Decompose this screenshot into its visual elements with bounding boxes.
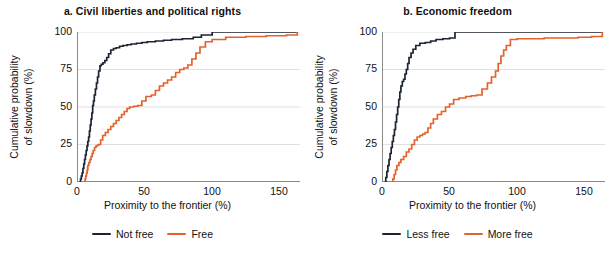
legend-label-more-free: More free [488, 228, 533, 240]
panel-b-plot-svg [382, 32, 605, 182]
panel-b-plot-area [382, 32, 605, 182]
panel-b-ytick-75: 75 [349, 62, 377, 74]
panel-b-ytick-50: 50 [349, 100, 377, 112]
panel-b-ytick-0: 0 [349, 175, 377, 187]
legend-swatch-less-free [382, 233, 401, 235]
legend-label-not-free: Not free [116, 228, 153, 240]
panel-a-ylabel: Cumulative probability of slowdown (%) [8, 32, 35, 182]
panel-b: b. Economic freedom Cumulative probabili… [305, 0, 610, 258]
panel-a-plot-svg [77, 32, 300, 182]
panel-b-xtick-100: 100 [508, 185, 526, 197]
panel-a-ytick-25: 25 [44, 137, 72, 149]
panel-b-xlabel: Proximity to the frontier (%) [335, 199, 610, 211]
panel-b-xtick-50: 50 [443, 185, 455, 197]
panel-a-ytick-100: 100 [44, 25, 72, 37]
panel-a-ytick-labels: 100 75 50 25 0 [42, 0, 72, 258]
panel-a-legend: Not free Free [0, 228, 305, 240]
panel-b-ylabel-line2: of slowdown (%) [327, 32, 341, 182]
panel-a: a. Civil liberties and political rights … [0, 0, 305, 258]
panel-a-xtick-0: 0 [74, 185, 80, 197]
legend-item-not-free: Not free [92, 228, 153, 240]
panel-a-xtick-150: 150 [270, 185, 288, 197]
panel-a-xtick-100: 100 [203, 185, 221, 197]
legend-swatch-not-free [92, 233, 111, 235]
panel-a-xlabel: Proximity to the frontier (%) [30, 199, 305, 211]
legend-swatch-free [167, 233, 186, 235]
panel-a-ylabel-line2: of slowdown (%) [22, 32, 36, 182]
panel-a-ytick-0: 0 [44, 175, 72, 187]
legend-item-free: Free [167, 228, 213, 240]
panel-b-legend: Less free More free [305, 228, 610, 240]
panel-a-plot-area [77, 32, 300, 182]
panel-b-xtick-0: 0 [379, 185, 385, 197]
legend-label-less-free: Less free [406, 228, 449, 240]
panel-b-ylabel-line1: Cumulative probability [313, 32, 327, 182]
panel-a-xtick-50: 50 [138, 185, 150, 197]
legend-label-free: Free [191, 228, 213, 240]
panel-a-ylabel-line1: Cumulative probability [8, 32, 22, 182]
panel-b-ylabel: Cumulative probability of slowdown (%) [313, 32, 340, 182]
panel-a-ytick-75: 75 [44, 62, 72, 74]
legend-swatch-more-free [464, 233, 483, 235]
panel-b-xtick-150: 150 [575, 185, 593, 197]
panel-a-ytick-50: 50 [44, 100, 72, 112]
legend-item-less-free: Less free [382, 228, 449, 240]
panel-b-ytick-100: 100 [349, 25, 377, 37]
panel-b-ytick-labels: 100 75 50 25 0 [347, 0, 377, 258]
legend-item-more-free: More free [464, 228, 533, 240]
figure-container: a. Civil liberties and political rights … [0, 0, 610, 258]
panel-b-ytick-25: 25 [349, 137, 377, 149]
